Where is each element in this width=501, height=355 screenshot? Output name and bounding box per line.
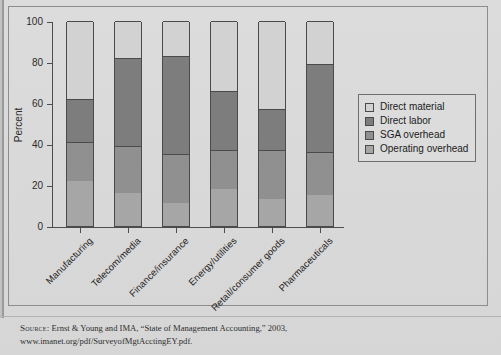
- bar-segment: [163, 154, 189, 203]
- y-axis: [52, 22, 53, 228]
- y-axis-title: Percent: [13, 108, 24, 142]
- bar-segment: [67, 181, 93, 226]
- figure: Percent 020406080100 ManufacturingTeleco…: [8, 6, 488, 306]
- x-tick: [128, 227, 129, 233]
- legend-swatch: [365, 145, 374, 154]
- bar-segment: [67, 21, 93, 99]
- x-tick: [80, 227, 81, 233]
- page-edge-inner: [2, 0, 4, 318]
- legend-item: Direct labor: [365, 114, 468, 128]
- bar-segment: [259, 21, 285, 109]
- legend-item: Operating overhead: [365, 142, 468, 156]
- source-note: Source: Ernst & Young and IMA, “State of…: [20, 322, 460, 348]
- bar: [210, 22, 238, 227]
- legend-item: SGA overhead: [365, 128, 468, 142]
- bar-segment: [163, 21, 189, 56]
- bar-segment: [307, 195, 333, 226]
- bar-segment: [211, 91, 237, 150]
- bar-segment: [211, 189, 237, 226]
- bar-segment: [307, 64, 333, 152]
- bar: [114, 22, 142, 227]
- y-tick: [47, 22, 53, 23]
- x-tick: [224, 227, 225, 233]
- bar: [66, 22, 94, 227]
- x-tick: [320, 227, 321, 233]
- bar-segment: [211, 150, 237, 189]
- bar-segment: [259, 150, 285, 199]
- y-tick: [47, 63, 53, 64]
- bar: [306, 22, 334, 227]
- y-tick-label: 80: [32, 58, 43, 68]
- bar-segment: [67, 99, 93, 142]
- legend-label: Operating overhead: [380, 144, 468, 154]
- bar-segment: [307, 21, 333, 64]
- bar-segment: [67, 142, 93, 181]
- bar-segment: [115, 58, 141, 146]
- bar-segment: [115, 21, 141, 58]
- bar-segment: [211, 21, 237, 91]
- x-tick: [176, 227, 177, 233]
- bar-segment: [115, 193, 141, 226]
- legend-label: SGA overhead: [380, 130, 445, 140]
- bar: [162, 22, 190, 227]
- bar-segment: [163, 56, 189, 154]
- y-tick-label: 60: [32, 99, 43, 109]
- x-tick: [272, 227, 273, 233]
- source-line-1: Ernst & Young and IMA, “State of Managem…: [49, 323, 287, 333]
- y-tick-label: 0: [37, 222, 43, 232]
- y-tick-label: 40: [32, 140, 43, 150]
- y-tick: [47, 145, 53, 146]
- legend-label: Direct labor: [380, 116, 431, 126]
- source-prefix: Source:: [20, 323, 49, 333]
- legend-item: Direct material: [365, 100, 468, 114]
- bar: [258, 22, 286, 227]
- page-background: Percent 020406080100 ManufacturingTeleco…: [0, 0, 501, 355]
- source-line-2: www.imanet.org/pdf/SurveyofMgtAcctingEY.…: [20, 335, 460, 347]
- bar-segment: [259, 199, 285, 226]
- y-tick: [47, 227, 53, 228]
- x-axis: [52, 227, 344, 228]
- bar-segment: [115, 146, 141, 193]
- y-tick-label: 100: [26, 17, 43, 27]
- plot-area: Percent 020406080100 ManufacturingTeleco…: [52, 22, 342, 228]
- legend-swatch: [365, 117, 374, 126]
- y-tick-label: 20: [32, 181, 43, 191]
- horizontal-rule: [0, 316, 501, 317]
- legend: Direct materialDirect laborSGA overheadO…: [358, 94, 476, 162]
- bar-segment: [307, 152, 333, 195]
- y-tick: [47, 186, 53, 187]
- bar-segment: [259, 109, 285, 150]
- y-tick: [47, 104, 53, 105]
- legend-label: Direct material: [380, 102, 444, 112]
- legend-swatch: [365, 103, 374, 112]
- legend-swatch: [365, 131, 374, 140]
- bar-segment: [163, 203, 189, 226]
